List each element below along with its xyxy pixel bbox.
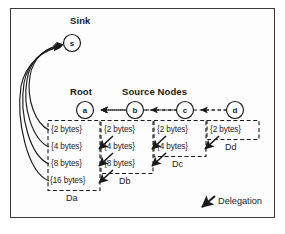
node-label-a: a bbox=[81, 107, 89, 115]
db-item-3: {8 bytes} bbox=[104, 160, 135, 168]
node-label-d: d bbox=[231, 107, 239, 115]
dd-item-1: {2 bytes} bbox=[210, 126, 241, 134]
group-name-dd: Dd bbox=[225, 143, 237, 152]
group-name-db: Db bbox=[119, 177, 131, 186]
dc-item-1: {2 bytes} bbox=[157, 126, 188, 134]
dc-item-2: {4 bytes} bbox=[157, 143, 188, 151]
group-name-da: Da bbox=[66, 194, 78, 203]
root-title-label: Root bbox=[70, 87, 92, 97]
db-item-1: {2 bytes} bbox=[104, 126, 135, 134]
sink-title-label: Sink bbox=[70, 16, 90, 26]
delegation-legend-icon bbox=[202, 196, 215, 207]
source-nodes-title-label: Source Nodes bbox=[122, 87, 187, 97]
delegation-legend-label: Delegation bbox=[218, 197, 262, 206]
group-name-dc: Dc bbox=[172, 160, 183, 169]
da-item-4: {16 bytes} bbox=[50, 177, 85, 185]
db-item-2: {4 bytes} bbox=[104, 143, 135, 151]
node-label-c: c bbox=[181, 107, 189, 115]
node-circles bbox=[64, 35, 244, 119]
node-label-s: s bbox=[68, 40, 76, 48]
da-item-3: {8 bytes} bbox=[51, 160, 82, 168]
da-item-1: {2 bytes} bbox=[51, 126, 82, 134]
node-label-b: b bbox=[131, 107, 139, 115]
delegation-arrow-dd-to-dc-1 bbox=[205, 136, 219, 149]
da-item-2: {4 bytes} bbox=[51, 143, 82, 151]
figure-page: Sink Root Source Nodes s a b c d {2 byte… bbox=[0, 0, 285, 234]
